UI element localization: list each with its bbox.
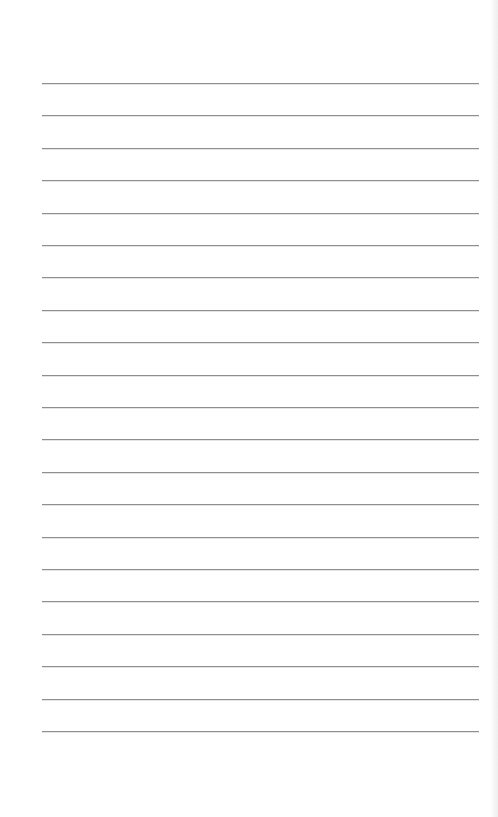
ruled-line [42, 115, 479, 116]
ruled-line [42, 180, 479, 181]
ruled-line [42, 601, 479, 602]
ruled-line [42, 634, 479, 635]
ruled-line [42, 569, 479, 570]
ruled-line [42, 342, 479, 343]
ruled-line [42, 148, 479, 149]
ruled-line [42, 472, 479, 473]
ruled-line [42, 666, 479, 667]
page-edge-shadow [490, 0, 498, 817]
ruled-line [42, 245, 479, 246]
ruled-line [42, 310, 479, 311]
ruled-line [42, 213, 479, 214]
ruled-line [42, 699, 479, 700]
ruled-line [42, 731, 479, 732]
ruled-line [42, 375, 479, 376]
ruled-line [42, 277, 479, 278]
ruled-line [42, 537, 479, 538]
ruled-line [42, 439, 479, 440]
ruled-line [42, 504, 479, 505]
ruled-lines [0, 0, 498, 817]
ruled-line [42, 83, 479, 84]
ruled-line [42, 407, 479, 408]
